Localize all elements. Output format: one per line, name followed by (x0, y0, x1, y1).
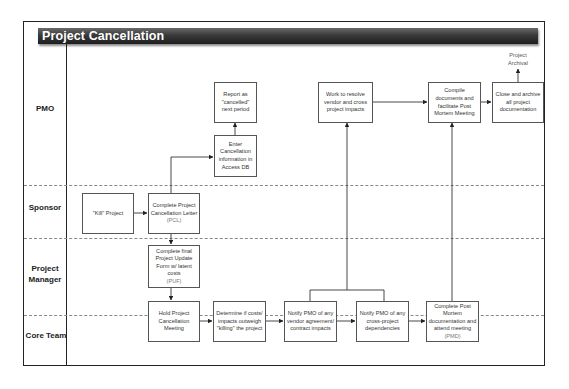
node-text: Complete final Project Update Form w/ la… (155, 248, 192, 277)
node-text: Notify PMO of any vendor agreement/ cont… (286, 310, 335, 333)
node-text: Hold Project Cancellation Meeting (150, 310, 198, 333)
node-compile-documents: Compile documents and facilitate Post Mo… (428, 82, 481, 123)
node-text: Report as "cancelled" next period (216, 91, 255, 114)
node-text: Work to resolve vendor and cross project… (320, 91, 371, 114)
node-text: Compile documents and facilitate Post Mo… (430, 87, 479, 117)
node-text: Determine if costs/ impacts outweigh "ki… (215, 310, 264, 333)
node-text: Notify PMO of any cross-project dependen… (358, 310, 407, 333)
node-notify-cross-project: Notify PMO of any cross-project dependen… (356, 301, 409, 342)
node-enter-cancellation-db: Enter Cancellation information in Access… (214, 135, 257, 177)
node-resolve-impacts: Work to resolve vendor and cross project… (318, 82, 373, 123)
node-complete-pcl: Complete Project Cancellation Letter(PCL… (148, 193, 200, 234)
node-hold-cancellation-meeting: Hold Project Cancellation Meeting (148, 301, 200, 342)
node-text: "Kill" Project (93, 210, 123, 218)
node-project-archival: Project Archival (500, 52, 536, 67)
node-text: Enter Cancellation information in Access… (216, 141, 255, 171)
node-text: Complete Post Mortem documentation and a… (429, 303, 477, 332)
node-subtext: (PCL) (150, 217, 198, 225)
node-report-cancelled: Report as "cancelled" next period (214, 82, 257, 123)
node-text: Complete Project Cancellation Letter (151, 202, 198, 216)
node-notify-vendor-impacts: Notify PMO of any vendor agreement/ cont… (284, 301, 337, 342)
node-subtext: (PUF) (150, 278, 198, 286)
node-determine-costs: Determine if costs/ impacts outweigh "ki… (213, 301, 266, 342)
node-complete-post-mortem: Complete Post Mortem documentation and a… (426, 301, 479, 342)
node-subtext: (PMD) (444, 333, 460, 339)
node-complete-puf: Complete final Project Update Form w/ la… (148, 245, 200, 288)
node-kill-project: "Kill" Project (82, 193, 134, 234)
node-close-archive: Close and archive all project documentat… (492, 82, 544, 123)
node-text: Close and archive all project documentat… (494, 91, 542, 114)
